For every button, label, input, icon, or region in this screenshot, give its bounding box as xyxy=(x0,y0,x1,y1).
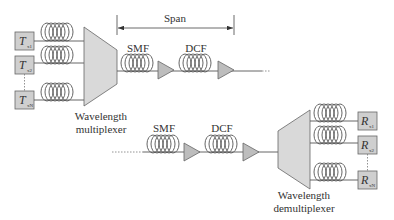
svg-text:x2: x2 xyxy=(369,148,375,153)
transmitter-x2: T x2 xyxy=(15,56,34,74)
demultiplexer-label-line2: demultiplexer xyxy=(273,202,334,214)
upper-dcf-coil: DCF xyxy=(179,42,211,72)
rx-fiber-1 xyxy=(310,104,358,122)
svg-text:xN: xN xyxy=(27,103,34,108)
lower-dcf-coil: DCF xyxy=(205,122,237,153)
receiver-x1: R x1 xyxy=(358,112,377,130)
demultiplexer-label-line1: Wavelength xyxy=(278,189,331,201)
svg-text:R: R xyxy=(360,138,369,152)
upper-amplifier-2 xyxy=(218,61,234,79)
wavelength-demultiplexer xyxy=(278,110,310,189)
tx-fiber-N xyxy=(34,83,85,101)
svg-text:R: R xyxy=(360,114,369,128)
transmitter-xN: T xN xyxy=(15,91,34,109)
rx-fiber-N xyxy=(310,163,358,181)
tx-fiber-1 xyxy=(34,23,85,41)
svg-text:R: R xyxy=(360,173,369,187)
receiver-x2: R x2 xyxy=(358,136,377,154)
svg-text:x1: x1 xyxy=(27,44,33,49)
svg-text:SMF: SMF xyxy=(127,42,149,54)
upper-amplifier-1 xyxy=(158,61,174,79)
wavelength-multiplexer xyxy=(84,27,117,106)
svg-text:SMF: SMF xyxy=(153,122,175,134)
multiplexer-label-line2: multiplexer xyxy=(76,123,127,135)
span-indicator: Span xyxy=(117,12,234,35)
svg-text:xN: xN xyxy=(369,183,376,188)
lower-amplifier-1 xyxy=(184,143,200,161)
lower-amplifier-2 xyxy=(243,143,259,161)
transmitter-x1: T x1 xyxy=(15,32,34,50)
svg-text:Span: Span xyxy=(164,12,187,24)
wdm-link-diagram: T x1 T x2 T xN Wavelength multiplexer Sp… xyxy=(0,0,394,220)
tx-fiber-2 xyxy=(34,46,85,64)
svg-text:x1: x1 xyxy=(369,124,375,129)
svg-text:DCF: DCF xyxy=(211,122,232,134)
lower-smf-coil: SMF xyxy=(147,122,179,153)
multiplexer-label-line1: Wavelength xyxy=(75,110,128,122)
upper-smf-coil: SMF xyxy=(121,42,153,72)
svg-text:DCF: DCF xyxy=(185,42,206,54)
svg-text:x2: x2 xyxy=(27,68,33,73)
receiver-xN: R xN xyxy=(358,171,377,189)
rx-fiber-2 xyxy=(310,126,358,144)
